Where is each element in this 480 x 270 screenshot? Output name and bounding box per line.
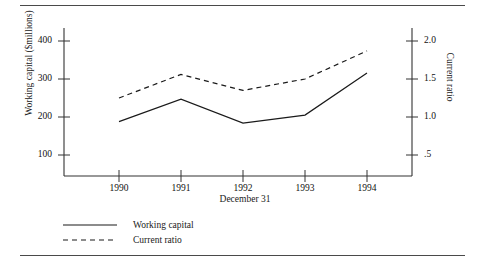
left-tick-label-100: 100 — [18, 150, 52, 160]
right-tick-label-0-5: .5 — [424, 150, 458, 160]
x-axis-title: December 31 — [180, 194, 310, 204]
legend-label-working-capital: Working capital — [133, 220, 194, 230]
x-tick-label-1994: 1994 — [345, 184, 389, 194]
x-tick-label-1991: 1991 — [159, 184, 203, 194]
series-line-working-capital — [119, 73, 367, 123]
figure: 400 300 200 100 2.0 1.5 1.0 .5 1990 1991… — [0, 0, 480, 270]
chart-plot-area — [0, 0, 480, 270]
x-tick-label-1992: 1992 — [221, 184, 265, 194]
legend-label-current-ratio: Current ratio — [133, 235, 182, 245]
x-tick-label-1993: 1993 — [283, 184, 327, 194]
x-tick-label-1990: 1990 — [97, 184, 141, 194]
right-axis-title: Current ratio — [445, 32, 455, 122]
series-line-current-ratio — [119, 51, 367, 98]
left-axis-title: Working capital ($millions) — [24, 0, 34, 138]
